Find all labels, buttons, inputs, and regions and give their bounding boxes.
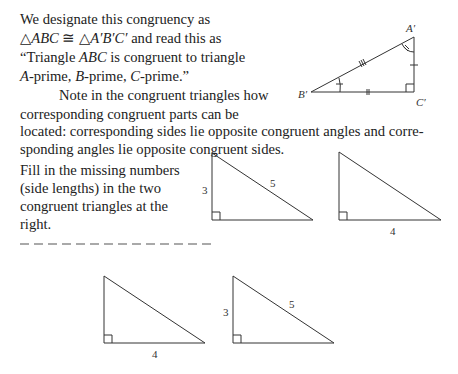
triangle-1-hypotenuse-label: 5 <box>270 177 276 189</box>
triangle-1 <box>212 153 313 220</box>
figures: A′ B′ C′ 3 5 4 4 3 5 <box>0 0 458 374</box>
triangle-abc-prime <box>311 37 418 95</box>
vertex-a-prime-label: A′ <box>405 22 416 34</box>
triangle-4 <box>233 276 334 343</box>
triangle-2-horizontal-leg-label: 4 <box>390 225 396 237</box>
vertex-b-prime-label: B′ <box>298 88 308 100</box>
triangle-1-vertical-leg-label: 3 <box>202 184 208 196</box>
vertex-c-prime-label: C′ <box>416 96 426 108</box>
triangle-3-horizontal-leg-label: 4 <box>152 348 158 360</box>
triangle-4-hypotenuse-label: 5 <box>289 298 295 310</box>
triangle-3 <box>104 276 205 343</box>
triangle-2 <box>339 152 441 220</box>
triangle-4-vertical-leg-label: 3 <box>223 306 229 318</box>
